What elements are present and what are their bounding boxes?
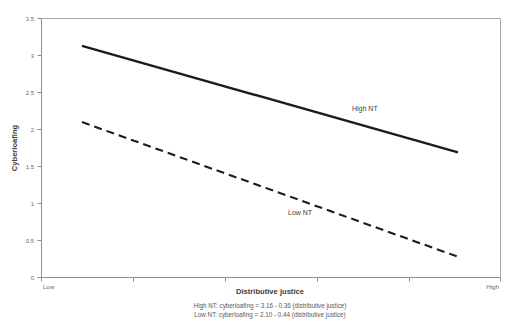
chart-notes: High NT: cyberloafing = 3.16 - 0.36 (dis… [194, 302, 347, 319]
x-tick-label-low: Low [43, 283, 55, 290]
note-low-nt-equation: Low NT: cyberloafing = 2.10 - 0.44 (dist… [194, 311, 345, 319]
y-axis-title: Cyberloafing [10, 124, 19, 171]
y-tick-label-3_5: 3.5 [26, 16, 35, 22]
y-tick-label-1_5: 1.5 [26, 164, 35, 170]
x-axis-title: Distributive justice [236, 287, 304, 296]
series-label-low-nt: Low NT [288, 209, 313, 216]
chart-svg: 0 0.5 1 1.5 2 2.5 3 3.5 Cyberloafing Low… [0, 0, 517, 330]
y-tick-label-0_5: 0.5 [26, 238, 35, 244]
x-tick-label-high: High [486, 283, 499, 290]
note-high-nt-equation: High NT: cyberloafing = 3.16 - 0.36 (dis… [194, 302, 347, 310]
series-label-high-nt: High NT [352, 105, 378, 113]
chart-background [0, 0, 517, 330]
y-tick-label-2_5: 2.5 [26, 90, 35, 96]
chart-figure: 0 0.5 1 1.5 2 2.5 3 3.5 Cyberloafing Low… [0, 0, 517, 330]
